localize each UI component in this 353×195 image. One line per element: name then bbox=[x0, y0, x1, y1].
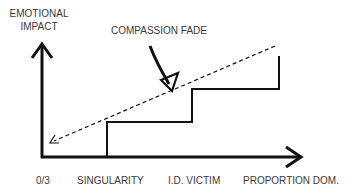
compassion-fade-label: COMPASSION FADE bbox=[111, 25, 207, 36]
y-axis-label-line2: IMPACT bbox=[6, 21, 72, 32]
x-tick-0: 0/3 bbox=[36, 175, 50, 186]
x-tick-2: I.D. VICTIM bbox=[168, 175, 220, 186]
compassion-fade-arrowhead bbox=[50, 135, 59, 143]
x-tick-1: SINGULARITY bbox=[77, 175, 144, 186]
x-tick-3: PROPORTION DOM. bbox=[243, 175, 339, 186]
compassion-fade-line bbox=[54, 46, 275, 141]
y-axis-label-line1: EMOTIONAL bbox=[6, 8, 72, 19]
